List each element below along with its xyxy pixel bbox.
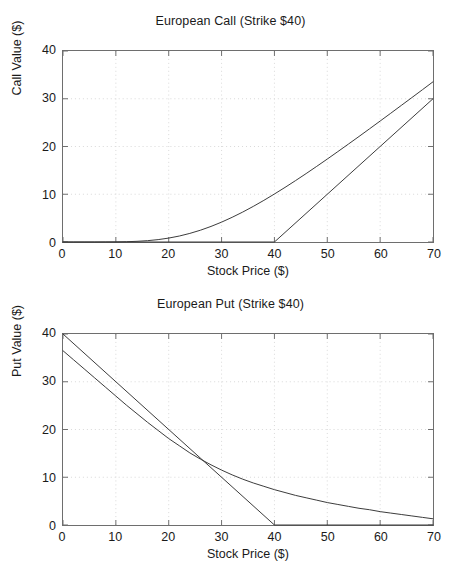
chart-title-call: European Call (Strike $40) [0,14,461,28]
x-axis-ticks-put: 0 10 20 30 40 50 60 70 [62,530,434,548]
y-tick-label: 40 [10,43,56,57]
x-tick-label: 0 [42,247,82,261]
y-tick-label: 30 [10,374,56,388]
x-tick-label: 40 [255,530,295,544]
y-tick-label: 30 [10,91,56,105]
x-axis-title-put: Stock Price ($) [62,547,434,561]
options-pricing-figure: European Call (Strike $40) Call Value ($… [0,0,461,566]
data-series-line [63,351,433,519]
x-tick-label: 10 [95,247,135,261]
plot-canvas-call [63,51,433,242]
plot-area-put [62,333,434,526]
x-tick-label: 30 [201,530,241,544]
y-tick-label: 10 [10,471,56,485]
x-tick-label: 70 [414,530,454,544]
x-tick-label: 20 [148,530,188,544]
y-axis-ticks-call: 40 30 20 10 0 [8,50,56,243]
plot-canvas-put [63,334,433,525]
x-tick-label: 60 [361,247,401,261]
x-tick-label: 30 [201,247,241,261]
x-tick-label: 0 [42,530,82,544]
x-tick-label: 60 [361,530,401,544]
x-axis-ticks-call: 0 10 20 30 40 50 60 70 [62,247,434,265]
y-tick-label: 10 [10,188,56,202]
x-axis-title-call: Stock Price ($) [62,264,434,278]
x-tick-label: 50 [308,530,348,544]
x-tick-label: 40 [255,247,295,261]
chart-panel-european-call: European Call (Strike $40) Call Value ($… [0,0,461,283]
x-tick-label: 20 [148,247,188,261]
chart-title-put: European Put (Strike $40) [0,297,461,311]
plot-area-call [62,50,434,243]
data-series-line [63,99,433,242]
x-tick-label: 50 [308,247,348,261]
data-series-line [63,82,433,242]
x-tick-label: 10 [95,530,135,544]
y-tick-label: 20 [10,423,56,437]
x-tick-label: 70 [414,247,454,261]
y-tick-label: 40 [10,326,56,340]
y-axis-ticks-put: 40 30 20 10 0 [8,333,56,526]
chart-panel-european-put: European Put (Strike $40) Put Value ($) … [0,283,461,566]
y-tick-label: 20 [10,140,56,154]
